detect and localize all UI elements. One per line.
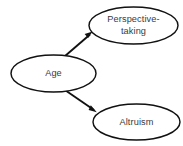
node-perspective-taking[interactable]: Perspective- taking xyxy=(89,7,178,44)
path-diagram-canvas: Perspective- taking Age Altruism xyxy=(0,0,183,146)
node-label-perspective-taking-line2: taking xyxy=(121,26,146,36)
diagram-svg: Perspective- taking Age Altruism xyxy=(0,0,183,146)
node-altruism[interactable]: Altruism xyxy=(93,104,180,140)
node-label-altruism: Altruism xyxy=(120,117,154,127)
node-label-age: Age xyxy=(45,68,62,78)
node-label-perspective-taking-line1: Perspective- xyxy=(107,14,159,24)
node-age[interactable]: Age xyxy=(11,55,96,92)
